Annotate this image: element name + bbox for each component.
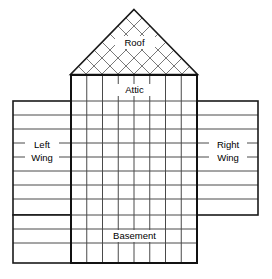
left-wing-label-line2: Wing	[31, 152, 53, 163]
basement-label: Basement	[113, 230, 156, 241]
left-basement-extension-group	[13, 215, 71, 263]
roof-label: Roof	[124, 37, 144, 48]
left-wing-label-line1: Left	[34, 139, 50, 150]
attic-label: Attic	[125, 84, 144, 95]
left-basement-fill	[13, 215, 71, 263]
right-wing-label-line1: Right	[217, 139, 240, 150]
house-diagram-svg: Roof Attic Left Wing Right Wing Basement	[0, 0, 272, 279]
right-wing-label-line2: Wing	[217, 152, 239, 163]
house-diagram: Roof Attic Left Wing Right Wing Basement	[0, 0, 272, 279]
